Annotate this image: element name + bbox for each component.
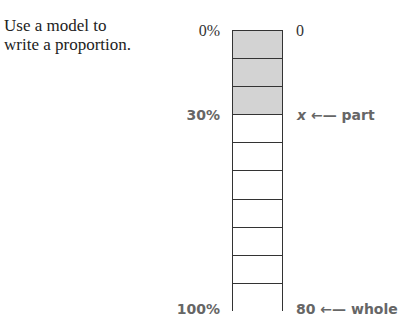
bar-cell — [233, 284, 282, 312]
label-whole: 80 ←— whole — [296, 301, 398, 317]
label-30-percent: 30% — [160, 107, 220, 123]
part-text: part — [342, 107, 375, 123]
label-value-0: 0 — [296, 22, 304, 40]
label-100-percent: 100% — [160, 301, 220, 317]
bar-cell-shaded — [233, 31, 282, 59]
caption: Use a model to write a proportion. — [4, 16, 131, 54]
bar-cell — [233, 143, 282, 171]
bar-cell — [233, 200, 282, 228]
label-0-percent: 0% — [160, 22, 220, 40]
caption-line-2: write a proportion. — [4, 35, 131, 54]
bar-cell — [233, 228, 282, 256]
bar-cell — [233, 115, 282, 143]
label-part: x ←— part — [297, 107, 375, 123]
bar-cell-shaded — [233, 59, 282, 87]
variable-x: x — [297, 107, 306, 123]
caption-line-1: Use a model to — [4, 16, 131, 35]
arrow-left-icon: ←— — [320, 301, 346, 317]
value-80: 80 — [296, 301, 315, 317]
bar-cell — [233, 172, 282, 200]
arrow-left-icon: ←— — [311, 107, 337, 123]
bar-cell — [233, 256, 282, 284]
bar-cell-shaded — [233, 87, 282, 115]
percent-bar-model — [232, 30, 283, 311]
whole-text: whole — [351, 301, 398, 317]
